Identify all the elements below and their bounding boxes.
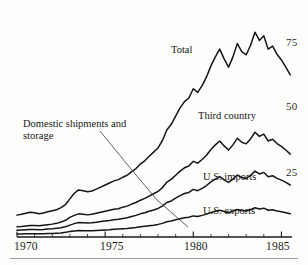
- series-label-us-exports: U.S. exports: [203, 205, 255, 217]
- x-axis-minor-ticks: [17, 232, 281, 238]
- y-axis-tick-50: 50: [286, 100, 298, 112]
- x-axis-tick-1975: 1975: [100, 240, 124, 252]
- series-label-domestic-shipments-and-storage: Domestic shipments and storage: [23, 118, 127, 142]
- series-label-total: Total: [171, 44, 192, 56]
- x-axis-tick-1970: 1970: [14, 240, 38, 252]
- x-axis-tick-1980: 1980: [184, 240, 208, 252]
- y-axis-tick-75: 75: [286, 36, 298, 48]
- footer-rule: [10, 258, 298, 259]
- y-axis-tick-25: 25: [286, 166, 298, 178]
- series-label-third-country: Third country: [198, 110, 256, 122]
- series-label-us-imports: U.S. imports: [203, 171, 256, 183]
- chart-figure: 75 50 25 1970 1975 1980 1985 Total Third…: [0, 0, 308, 265]
- x-axis-tick-1985: 1985: [266, 240, 290, 252]
